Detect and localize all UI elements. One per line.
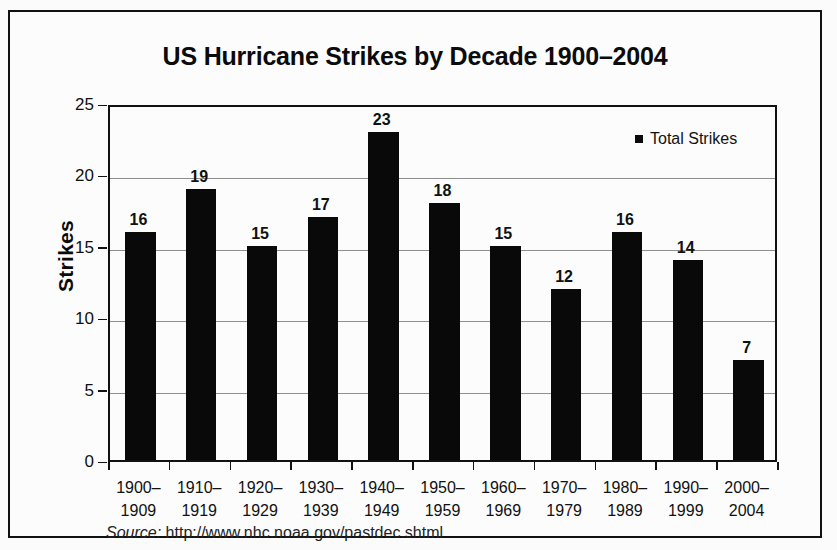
x-category-label-line: 1929 (230, 499, 291, 522)
y-tick-label-15: 15 (34, 238, 94, 258)
y-tick-label-0: 0 (34, 452, 94, 472)
x-category-label-line: 1910– (169, 476, 230, 499)
x-category-label-line: 1999 (655, 499, 716, 522)
x-category-label-line: 1930– (290, 476, 351, 499)
bar (490, 246, 520, 460)
x-category-label-line: 1989 (595, 499, 656, 522)
x-category-label: 1970–1979 (534, 476, 595, 522)
x-category-label: 1910–1919 (169, 476, 230, 522)
legend-label-total-strikes: Total Strikes (650, 130, 737, 148)
bar-value-label: 16 (113, 211, 163, 229)
x-category-label-line: 1970– (534, 476, 595, 499)
figure-frame: US Hurricane Strikes by Decade 1900–2004… (8, 10, 822, 538)
chart-title: US Hurricane Strikes by Decade 1900–2004 (10, 42, 820, 71)
bar-value-label: 18 (418, 182, 468, 200)
y-tick-mark-10 (98, 319, 107, 321)
x-category-label: 1940–1949 (351, 476, 412, 522)
x-tick-mark (230, 462, 232, 470)
x-category-label: 1900–1909 (108, 476, 169, 522)
x-category-label-line: 1959 (412, 499, 473, 522)
bar-value-label: 19 (174, 168, 224, 186)
y-tick-mark-0 (98, 462, 107, 464)
x-category-label-line: 1909 (108, 499, 169, 522)
x-tick-mark (108, 462, 110, 470)
x-category-label-line: 1920– (230, 476, 291, 499)
x-category-label: 1950–1959 (412, 476, 473, 522)
bar (368, 132, 398, 460)
bar-value-label: 16 (600, 211, 650, 229)
x-category-label-line: 1950– (412, 476, 473, 499)
y-tick-label-5: 5 (34, 381, 94, 401)
x-category-label-line: 1949 (351, 499, 412, 522)
x-tick-mark (351, 462, 353, 470)
bar (551, 289, 581, 460)
bar-value-label: 15 (235, 225, 285, 243)
x-category-label-line: 1940– (351, 476, 412, 499)
bar (673, 260, 703, 460)
x-category-label-line: 1939 (290, 499, 351, 522)
y-tick-mark-25 (98, 105, 107, 107)
x-category-label-line: 1960– (473, 476, 534, 499)
bar (247, 246, 277, 460)
x-tick-mark (169, 462, 171, 470)
bar-value-label: 23 (357, 111, 407, 129)
x-category-label: 1990–1999 (655, 476, 716, 522)
y-tick-mark-15 (98, 247, 107, 249)
x-tick-mark (655, 462, 657, 470)
source-prefix: Source: (106, 524, 161, 541)
x-category-label-line: 1990– (655, 476, 716, 499)
legend-swatch-total-strikes (635, 135, 643, 143)
x-category-label: 1920–1929 (230, 476, 291, 522)
bar-value-label: 7 (722, 339, 772, 357)
bar-value-label: 14 (661, 239, 711, 257)
source-url: http://www.nhc.noaa.gov/pastdec.shtml (166, 524, 443, 541)
bar (186, 189, 216, 460)
bar (612, 232, 642, 460)
x-category-label: 2000–2004 (716, 476, 777, 522)
x-category-label-line: 1919 (169, 499, 230, 522)
y-tick-mark-5 (98, 390, 107, 392)
bar-value-label: 17 (296, 196, 346, 214)
bar-value-label: 15 (478, 225, 528, 243)
y-tick-mark-20 (98, 176, 107, 178)
y-tick-label-25: 25 (34, 95, 94, 115)
bar (733, 360, 763, 460)
plot-inner (110, 107, 775, 460)
x-category-label: 1930–1939 (290, 476, 351, 522)
y-tick-label-20: 20 (34, 166, 94, 186)
bar-value-label: 12 (539, 268, 589, 286)
x-tick-mark (290, 462, 292, 470)
x-tick-mark (534, 462, 536, 470)
x-category-label-line: 2004 (716, 499, 777, 522)
bar (429, 203, 459, 460)
x-tick-mark (777, 462, 779, 470)
bar (308, 217, 338, 460)
plot-area (108, 105, 777, 462)
source-line: Source: http://www.nhc.noaa.gov/pastdec.… (106, 524, 443, 542)
page-background: US Hurricane Strikes by Decade 1900–2004… (0, 0, 837, 550)
bar (125, 232, 155, 460)
x-category-label: 1980–1989 (595, 476, 656, 522)
x-tick-mark (412, 462, 414, 470)
x-tick-mark (473, 462, 475, 470)
y-tick-label-10: 10 (34, 309, 94, 329)
x-category-label-line: 1979 (534, 499, 595, 522)
x-category-label-line: 1980– (595, 476, 656, 499)
x-tick-mark (716, 462, 718, 470)
x-category-label-line: 2000– (716, 476, 777, 499)
x-tick-mark (595, 462, 597, 470)
legend: Total Strikes (635, 130, 737, 148)
x-category-label-line: 1969 (473, 499, 534, 522)
x-category-label-line: 1900– (108, 476, 169, 499)
x-category-label: 1960–1969 (473, 476, 534, 522)
